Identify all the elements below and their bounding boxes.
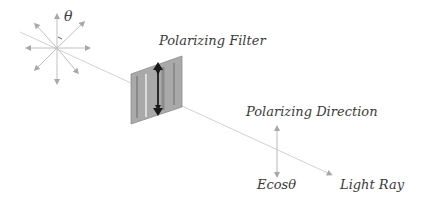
polarizing-direction-label: Polarizing Direction	[246, 105, 378, 118]
light-ray-label: Light Ray	[340, 178, 404, 191]
ecos-theta-label: Ecosθ	[257, 178, 296, 191]
polarizing-filter-icon	[131, 56, 182, 124]
unpolarized-light-icon	[28, 16, 88, 82]
theta-label: θ	[64, 9, 72, 23]
polarizing-filter-label: Polarizing Filter	[159, 34, 266, 47]
polarization-diagram	[0, 0, 423, 204]
